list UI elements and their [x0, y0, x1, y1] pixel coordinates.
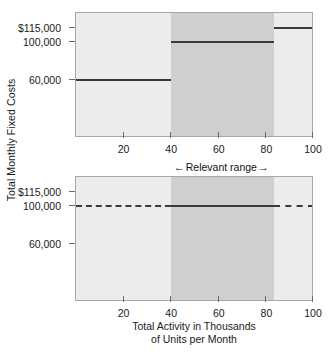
y-tick-top-100000: 100,000 — [69, 41, 75, 42]
x-tick-top-40: 40 — [170, 132, 171, 138]
x-tick-top-100: 100 — [312, 132, 313, 138]
step-function-panel: $115,000 100,000 60,000 20 40 60 80 100 — [75, 12, 313, 137]
x-tick-bottom-80: 80 — [265, 296, 266, 302]
approximation-segment-relevant-solid — [171, 205, 273, 207]
y-tick-label-bottom-115000: $115,000 — [18, 186, 61, 198]
x-tick-label-bottom-100: 100 — [304, 307, 322, 319]
x-tick-label-bottom-80: 80 — [261, 307, 273, 319]
x-axis-title: Total Activity in Thousands of Units per… — [75, 320, 313, 346]
y-tick-label-bottom-100000: 100,000 — [23, 200, 61, 212]
straight-line-approximation-panel: $115,000 100,000 60,000 20 40 60 80 100 — [75, 176, 313, 301]
y-tick-bottom-100000: 100,000 — [69, 205, 75, 206]
x-tick-bottom-100: 100 — [312, 296, 313, 302]
relevant-range-band-top — [171, 13, 273, 136]
x-tick-label-top-100: 100 — [304, 143, 322, 155]
relevant-range-band-bottom — [171, 177, 273, 300]
x-tick-bottom-20: 20 — [123, 296, 124, 302]
arrow-right-icon: → — [258, 162, 269, 173]
plot-frame-bottom — [75, 176, 313, 301]
x-tick-bottom-40: 40 — [170, 296, 171, 302]
y-axis-title: Total Monthly Fixed Costs — [0, 0, 22, 280]
y-tick-bottom-60000: 60,000 — [69, 243, 75, 244]
x-tick-top-80: 80 — [265, 132, 266, 138]
x-tick-top-20: 20 — [123, 132, 124, 138]
x-tick-label-bottom-60: 60 — [213, 307, 225, 319]
x-tick-label-top-40: 40 — [165, 143, 177, 155]
x-tick-label-bottom-20: 20 — [118, 307, 130, 319]
cost-step-segment-1 — [76, 79, 171, 81]
fixed-cost-step-chart-figure: Total Monthly Fixed Costs $115,000 100,0… — [0, 0, 330, 359]
approximation-segment-left-dashed — [76, 205, 171, 207]
x-axis-title-line-2: of Units per Month — [75, 333, 313, 346]
x-tick-label-top-60: 60 — [213, 143, 225, 155]
y-tick-top-60000: 60,000 — [69, 79, 75, 80]
relevant-range-annotation: ← Relevant range → — [170, 160, 272, 174]
arrow-left-icon: ← — [174, 162, 185, 173]
relevant-range-label: Relevant range — [185, 161, 258, 173]
y-tick-label-bottom-60000: 60,000 — [29, 238, 61, 250]
x-tick-label-top-80: 80 — [261, 143, 273, 155]
x-axis-title-line-1: Total Activity in Thousands — [75, 320, 313, 333]
y-tick-bottom-115000: $115,000 — [69, 191, 75, 192]
x-tick-label-top-20: 20 — [118, 143, 130, 155]
y-tick-label-top-115000: $115,000 — [18, 22, 61, 34]
y-axis-title-text: Total Monthly Fixed Costs — [5, 79, 17, 202]
plot-frame-top — [75, 12, 313, 137]
y-tick-label-top-60000: 60,000 — [29, 74, 61, 86]
approximation-segment-right-dashed — [274, 205, 313, 207]
x-tick-top-60: 60 — [218, 132, 219, 138]
y-tick-top-115000: $115,000 — [69, 27, 75, 28]
cost-step-segment-2 — [171, 41, 273, 43]
cost-step-segment-3 — [274, 27, 313, 29]
x-tick-bottom-60: 60 — [218, 296, 219, 302]
x-tick-label-bottom-40: 40 — [165, 307, 177, 319]
y-tick-label-top-100000: 100,000 — [23, 36, 61, 48]
